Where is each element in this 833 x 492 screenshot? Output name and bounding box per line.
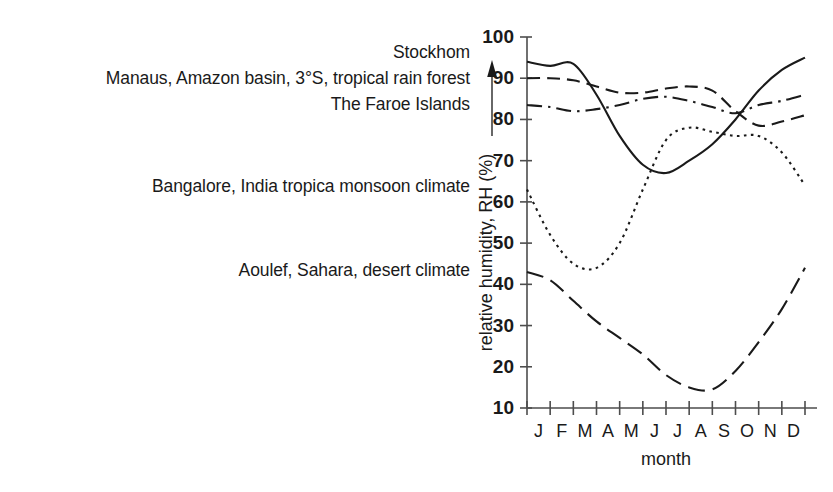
x-tick-label: M [624,421,639,441]
legend-label-faroe-islands: The Faroe Islands [331,92,470,116]
series-faroe-islands [527,58,805,174]
y-tick-label: 70 [493,150,514,171]
x-tick-label: J [673,421,682,441]
x-tick-label: J [534,421,543,441]
x-tick-label: A [602,421,614,441]
y-tick-label: 10 [493,397,514,418]
y-tick-label: 40 [493,273,514,294]
legend-label-stockholm: Stockhom [393,40,470,64]
y-tick-label: 30 [493,315,514,336]
x-tick-label: O [740,421,754,441]
y-tick-label: 90 [493,67,514,88]
series-stockholm [527,95,805,114]
legend-label-column: Stockhom Manaus, Amazon basin, 3°S, trop… [0,0,470,492]
x-tick-label: D [787,421,800,441]
legend-label-aoulef: Aoulef, Sahara, desert climate [239,258,470,282]
y-tick-label: 100 [482,26,514,47]
legend-label-bangalore: Bangalore, India tropica monsoon climate [152,174,470,198]
series-bangalore [527,127,805,269]
legend-label-manaus: Manaus, Amazon basin, 3°S, tropical rain… [106,66,470,90]
x-axis-title: month [641,449,691,469]
y-tick-label: 80 [493,108,514,129]
x-tick-label: S [718,421,730,441]
x-tick-label: F [556,421,567,441]
chart-canvas: 100908070605040302010JFMAMJJASONDmonthre… [470,0,833,492]
y-axis-title: relative humidity, RH (%) [476,154,496,352]
x-tick-label: M [577,421,592,441]
y-tick-label: 20 [493,356,514,377]
y-tick-label: 60 [493,191,514,212]
plot-area: 100908070605040302010JFMAMJJASONDmonthre… [470,0,833,492]
x-tick-label: A [695,421,707,441]
y-tick-label: 50 [493,232,514,253]
x-tick-label: J [650,421,659,441]
series-aoulef-sahara [527,268,805,391]
humidity-figure: Stockhom Manaus, Amazon basin, 3°S, trop… [0,0,833,492]
x-tick-label: N [764,421,777,441]
